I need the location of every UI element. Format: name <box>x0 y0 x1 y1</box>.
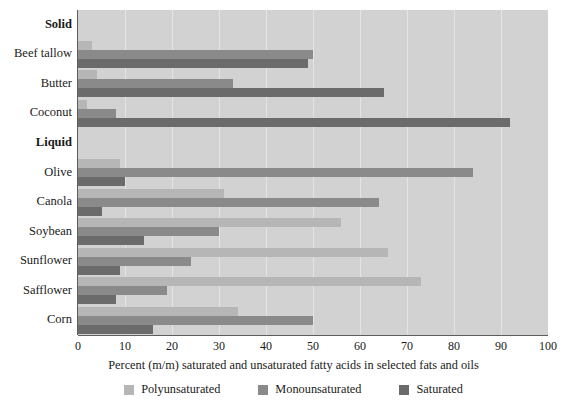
legend-swatch-icon <box>399 385 409 395</box>
legend-item-monounsaturated: Monounsaturated <box>258 382 361 397</box>
category-label-coconut: Coconut <box>0 106 72 119</box>
bar-sunflower-poly <box>78 248 388 257</box>
bar-beef-tallow-sat <box>78 59 308 68</box>
category-label-beef-tallow: Beef tallow <box>0 47 72 60</box>
legend-swatch-icon <box>124 385 134 395</box>
legend-label: Polyunsaturated <box>141 382 220 397</box>
bar-canola-sat <box>78 207 102 216</box>
group-header-solid: Solid <box>0 18 72 31</box>
y-axis-line <box>77 10 78 335</box>
category-label-sunflower: Sunflower <box>0 254 72 267</box>
bar-olive-sat <box>78 177 125 186</box>
plot-area <box>78 10 548 335</box>
x-tick-label-100: 100 <box>539 339 557 354</box>
bar-safflower-poly <box>78 277 421 286</box>
x-tick-label-50: 50 <box>307 339 319 354</box>
legend-label: Saturated <box>416 382 462 397</box>
category-label-soybean: Soybean <box>0 225 72 238</box>
bar-safflower-sat <box>78 295 116 304</box>
x-axis-line <box>78 335 548 336</box>
legend-item-saturated: Saturated <box>399 382 462 397</box>
bar-coconut-mono <box>78 109 116 118</box>
x-tick-label-80: 80 <box>448 339 460 354</box>
bar-sunflower-sat <box>78 266 120 275</box>
bar-soybean-sat <box>78 236 144 245</box>
bar-olive-poly <box>78 159 120 168</box>
bar-beef-tallow-mono <box>78 50 313 59</box>
category-label-corn: Corn <box>0 313 72 326</box>
bar-soybean-poly <box>78 218 341 227</box>
category-label-butter: Butter <box>0 77 72 90</box>
gridline-90 <box>501 10 502 335</box>
legend-swatch-icon <box>258 385 268 395</box>
bar-canola-poly <box>78 189 224 198</box>
bar-coconut-poly <box>78 100 87 109</box>
bar-beef-tallow-poly <box>78 41 92 50</box>
x-tick-label-30: 30 <box>213 339 225 354</box>
bar-soybean-mono <box>78 227 219 236</box>
x-tick-label-60: 60 <box>354 339 366 354</box>
bar-butter-sat <box>78 88 384 97</box>
bar-butter-mono <box>78 79 233 88</box>
chart-legend: PolyunsaturatedMonounsaturatedSaturated <box>0 382 587 397</box>
legend-label: Monounsaturated <box>275 382 361 397</box>
bar-corn-mono <box>78 316 313 325</box>
fatty-acid-bar-chart: SolidBeef tallowButterCoconutLiquidOlive… <box>0 0 587 409</box>
x-tick-label-0: 0 <box>75 339 81 354</box>
category-label-canola: Canola <box>0 195 72 208</box>
bar-olive-mono <box>78 168 473 177</box>
category-label-olive: Olive <box>0 166 72 179</box>
x-tick-label-20: 20 <box>166 339 178 354</box>
x-tick-label-90: 90 <box>495 339 507 354</box>
bar-safflower-mono <box>78 286 167 295</box>
x-tick-label-10: 10 <box>119 339 131 354</box>
x-tick-label-40: 40 <box>260 339 272 354</box>
bar-corn-poly <box>78 307 238 316</box>
x-tick-label-70: 70 <box>401 339 413 354</box>
category-label-safflower: Safflower <box>0 284 72 297</box>
bar-corn-sat <box>78 325 153 334</box>
group-header-liquid: Liquid <box>0 136 72 149</box>
x-axis-title: Percent (m/m) saturated and unsaturated … <box>0 358 587 373</box>
bar-coconut-sat <box>78 118 510 127</box>
legend-item-polyunsaturated: Polyunsaturated <box>124 382 220 397</box>
bar-butter-poly <box>78 70 97 79</box>
bar-canola-mono <box>78 198 379 207</box>
bar-sunflower-mono <box>78 257 191 266</box>
